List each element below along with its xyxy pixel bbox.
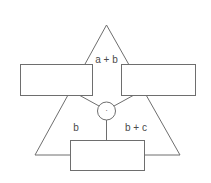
bottom-box xyxy=(71,141,145,171)
diagram-canvas: · a + b b b + c xyxy=(0,0,211,183)
label-right: b + c xyxy=(125,122,147,133)
label-top: a + b xyxy=(95,54,118,65)
left-box xyxy=(21,65,93,96)
connector-right xyxy=(114,95,134,106)
connector-left xyxy=(79,95,99,106)
right-box xyxy=(122,65,196,96)
operator-symbol: · xyxy=(105,106,108,115)
label-left: b xyxy=(73,122,79,133)
